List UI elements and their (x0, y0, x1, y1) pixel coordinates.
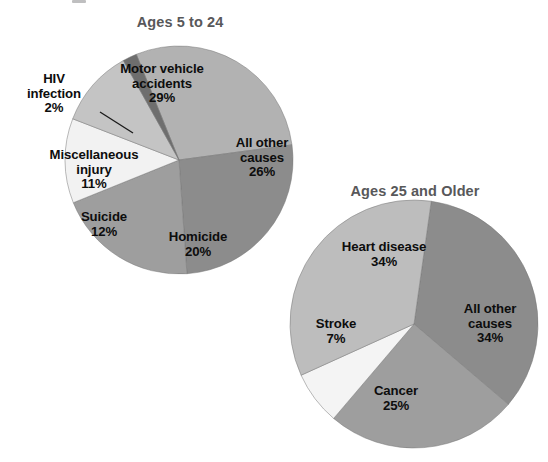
pie1-label-all-other-causes-line2: causes (216, 151, 308, 166)
pie1-label-motor-vehicle-accidents-line2: accidents (96, 77, 228, 92)
pie1-label-miscellaneous-injury-line2: injury (34, 163, 154, 178)
pie1-label-miscellaneous-injury-line1: Miscellaneous (34, 148, 154, 163)
pie2-label-all-other-causes-line2: causes (444, 317, 536, 332)
pie1-value-suicide: 12% (58, 225, 150, 240)
pie1-label-suicide: Suicide 12% (58, 210, 150, 239)
pie2-label-cancer-line1: Cancer (350, 384, 442, 399)
pie1-label-suicide-line1: Suicide (58, 210, 150, 225)
pie2-value-heart-disease: 34% (322, 255, 446, 270)
pie2-label-stroke: Stroke 7% (296, 317, 376, 346)
pie2-label-cancer: Cancer 25% (350, 384, 442, 413)
pie1-label-hiv-infection: HIV infection 2% (10, 72, 98, 116)
pie2-label-all-other-causes: All other causes 34% (444, 302, 536, 346)
pie1-value-all-other-causes: 26% (216, 165, 308, 180)
pie2-label-all-other-causes-line1: All other (444, 302, 536, 317)
pie1-label-miscellaneous-injury: Miscellaneous injury 11% (34, 148, 154, 192)
pie2-value-all-other-causes: 34% (444, 331, 536, 346)
pie1-label-homicide: Homicide 20% (152, 230, 244, 259)
pie2-value-stroke: 7% (296, 332, 376, 347)
pie2-label-stroke-line1: Stroke (296, 317, 376, 332)
pie1-label-motor-vehicle-accidents: Motor vehicle accidents 29% (96, 62, 228, 106)
pie1-label-hiv-infection-line1: HIV (10, 72, 98, 87)
pie1-label-motor-vehicle-accidents-line1: Motor vehicle (96, 62, 228, 77)
pie1-value-miscellaneous-injury: 11% (34, 177, 154, 192)
pie1-label-homicide-line1: Homicide (152, 230, 244, 245)
pie1-value-motor-vehicle-accidents: 29% (96, 91, 228, 106)
pie2-value-cancer: 25% (350, 399, 442, 414)
pie2-label-heart-disease-line1: Heart disease (322, 240, 446, 255)
pie2-title: Ages 25 and Older (300, 183, 530, 199)
pie1-value-hiv-infection: 2% (10, 101, 98, 116)
pie1-label-hiv-infection-line2: infection (10, 87, 98, 102)
pie1-label-all-other-causes: All other causes 26% (216, 136, 308, 180)
pie1-value-homicide: 20% (152, 245, 244, 260)
pie-chart-figure: Ages 5 to 24 Motor vehicle accidents 29%… (0, 0, 548, 462)
pie2-label-heart-disease: Heart disease 34% (322, 240, 446, 269)
pie1-label-all-other-causes-line1: All other (216, 136, 308, 151)
